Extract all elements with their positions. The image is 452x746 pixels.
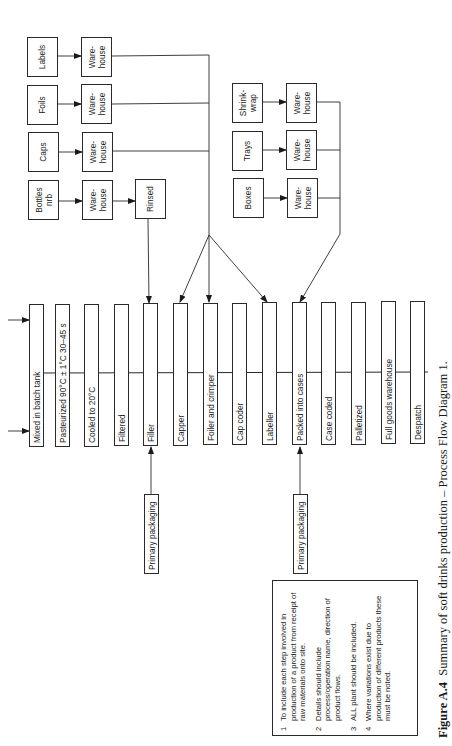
note-text: Details should include process/operation…: [314, 587, 343, 721]
warehouse-label: Ware- house: [87, 93, 106, 116]
step-pasteurized: Pasteurized 90°C ± 1°C 30–45 s: [55, 304, 70, 447]
step-despatch: Despatch: [410, 301, 425, 444]
step-label: Cooled to 20°C: [87, 387, 97, 443]
step-label: Despatch: [413, 405, 423, 440]
input-label: Primary packaging: [147, 501, 157, 570]
primary-packaging-cases: Primary packaging: [293, 494, 308, 574]
warehouse-label: Ware- house: [88, 141, 107, 164]
step-filler: Filler: [143, 303, 158, 446]
notes-box: 1To include each step involved in produc…: [272, 580, 418, 736]
material-caps: Caps: [28, 132, 59, 172]
warehouse-label: Ware- house: [88, 189, 107, 212]
note-item: 4Where variations exist due to productio…: [364, 587, 393, 731]
step-label: Labeller: [265, 411, 275, 441]
primary-packaging-filler: Primary packaging: [144, 494, 159, 574]
warehouse-trays: Ware- house: [286, 130, 317, 170]
note-item: 2Details should include process/operatio…: [314, 587, 343, 731]
note-item: 3ALL plant should be included.: [349, 587, 359, 731]
step-label: Case coded: [324, 397, 334, 441]
material-shrinkwrap: Shrink- wrap: [232, 83, 263, 123]
warehouse-bottles: Ware- house: [82, 180, 113, 220]
rinsed-label: Rinsed: [146, 186, 156, 212]
note-text: Where variations exist due to production…: [364, 587, 393, 721]
material-boxes: Boxes: [233, 178, 264, 218]
step-palletized: Palletized: [351, 302, 366, 445]
warehouse-caps: Ware- house: [82, 132, 113, 172]
material-label: Boxes: [244, 186, 254, 209]
step-label: Full goods warehouse: [384, 359, 394, 440]
warehouse-label: Ware- house: [292, 139, 311, 162]
step-label: Filtered: [117, 414, 127, 442]
material-label: Foils: [38, 96, 48, 114]
material-label: Labels: [38, 45, 48, 69]
warehouse-shrinkwrap: Ware- house: [286, 83, 317, 123]
step-labeller: Labeller: [262, 302, 277, 445]
step-cap-coder: Cap coder: [232, 303, 247, 445]
material-trays: Trays: [232, 131, 263, 171]
step-full-goods-warehouse: Full goods warehouse: [381, 301, 396, 444]
step-packed: Packed into cases: [292, 302, 307, 445]
warehouse-foils: Ware- house: [81, 84, 112, 124]
figure-caption: Figure A.4 Summary of soft drinks produc…: [436, 361, 450, 738]
step-label: Mixed in batch tank: [32, 372, 42, 443]
warehouse-label: Ware- house: [87, 46, 106, 69]
step-label: Pasteurized 90°C ± 1°C 30–45 s: [58, 323, 68, 443]
step-foiler: Foiler and crimper: [203, 303, 218, 445]
step-cooled: Cooled to 20°C: [84, 304, 99, 447]
material-foils: Foils: [27, 85, 58, 125]
rinsed-step: Rinsed: [135, 179, 166, 219]
warehouse-label: Ware- house: [292, 92, 311, 115]
material-label: Shrink- wrap: [238, 90, 257, 116]
step-label: Filler: [146, 424, 156, 442]
step-label: Cap coder: [235, 403, 245, 441]
step-label: Packed into cases: [295, 374, 305, 441]
step-capper: Capper: [173, 303, 188, 446]
material-labels: Labels: [27, 37, 58, 77]
step-mixed: Mixed in batch tank: [29, 304, 44, 447]
figure-number: Figure A.4: [436, 682, 450, 738]
note-text: To include each step involved in product…: [279, 587, 308, 721]
material-label: Bottles nrb: [34, 187, 53, 212]
material-bottles: Bottles nrb: [28, 180, 59, 220]
step-case-coded: Case coded: [321, 302, 336, 445]
material-label: Trays: [243, 141, 253, 161]
step-filtered: Filtered: [114, 304, 129, 446]
step-label: Foiler and crimper: [206, 374, 216, 441]
figure-title: Summary of soft drinks production – Proc…: [436, 361, 450, 676]
warehouse-label: Ware- house: [293, 187, 312, 210]
step-label: Palletized: [354, 405, 364, 441]
step-label: Capper: [176, 415, 186, 442]
material-label: Caps: [39, 142, 49, 161]
warehouse-boxes: Ware- house: [287, 178, 318, 218]
note-item: 1To include each step involved in produc…: [279, 587, 308, 731]
warehouse-labels: Ware- house: [81, 37, 112, 77]
input-label: Primary packaging: [296, 501, 306, 570]
note-text: ALL plant should be included.: [349, 622, 359, 721]
